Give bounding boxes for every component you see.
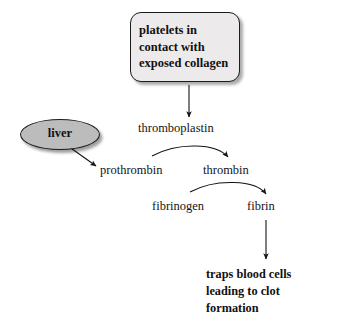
clotting-cascade-diagram: platelets in contact with exposed collag… (0, 0, 345, 336)
arrow-fibrinogen-to-fibrin (190, 182, 266, 194)
stimulus-box-label: platelets in contact with exposed collag… (139, 22, 237, 72)
label-thromboplastin: thromboplastin (138, 122, 214, 135)
label-thrombin: thrombin (203, 164, 249, 177)
outcome-label: traps blood cells leading to clot format… (206, 266, 331, 317)
label-fibrin: fibrin (247, 200, 275, 213)
label-fibrinogen: fibrinogen (152, 200, 204, 213)
label-prothrombin: prothrombin (100, 164, 163, 177)
liver-node-label: liver (20, 126, 100, 141)
arrow-prothrombin-to-thrombin (152, 146, 228, 157)
